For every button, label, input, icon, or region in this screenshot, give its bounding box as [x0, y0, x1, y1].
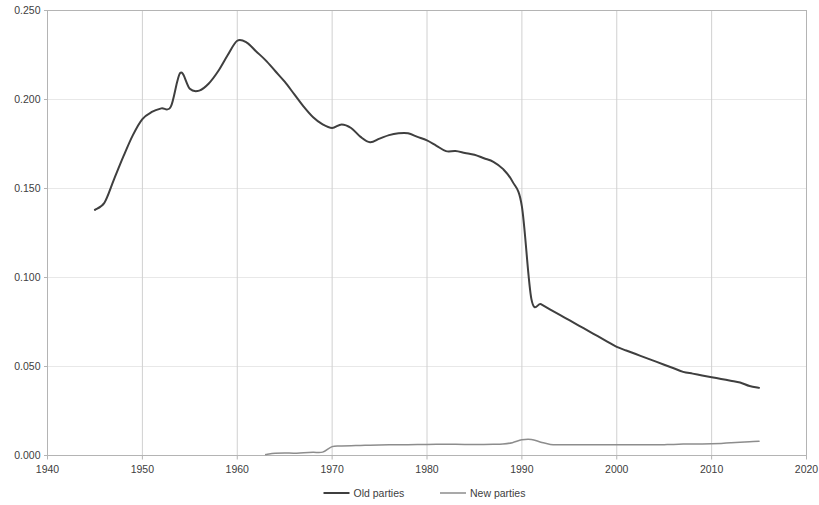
- y-axis-tick-label: 0.150: [14, 182, 40, 194]
- x-axis-tick-label: 1960: [226, 463, 250, 475]
- y-axis-tick-label: 0.100: [14, 271, 40, 283]
- line-chart: 0.0000.0500.1000.1500.2000.250 194019501…: [0, 0, 819, 505]
- series-line: [266, 439, 759, 454]
- y-axis-tick-label: 0.200: [14, 93, 40, 105]
- chart-plot-area: 0.0000.0500.1000.1500.2000.250 194019501…: [0, 0, 819, 505]
- x-axis-tick-label: 1980: [415, 463, 439, 475]
- legend-label: Old parties: [354, 487, 405, 499]
- x-axis-tick-label: 1970: [320, 463, 344, 475]
- chart-legend: Old partiesNew parties: [324, 487, 526, 499]
- y-axis-tick-label: 0.000: [14, 449, 40, 461]
- x-axis-tick-label: 2010: [700, 463, 724, 475]
- x-axis-tick-label: 1950: [131, 463, 155, 475]
- x-axis-tick-label: 2020: [795, 463, 819, 475]
- x-axis-tick-label: 2000: [605, 463, 629, 475]
- x-axis-tick-label: 1990: [510, 463, 534, 475]
- legend-label: New parties: [470, 487, 525, 499]
- x-axis-tick-marks: [48, 456, 807, 460]
- y-axis-tick-label: 0.250: [14, 4, 40, 16]
- y-axis-tick-labels: 0.0000.0500.1000.1500.2000.250: [14, 4, 47, 461]
- x-axis-tick-labels: 194019501960197019801990200020102020: [36, 463, 819, 475]
- y-axis-tick-label: 0.050: [14, 360, 40, 372]
- x-axis-tick-label: 1940: [36, 463, 60, 475]
- gridlines-vertical: [142, 11, 711, 456]
